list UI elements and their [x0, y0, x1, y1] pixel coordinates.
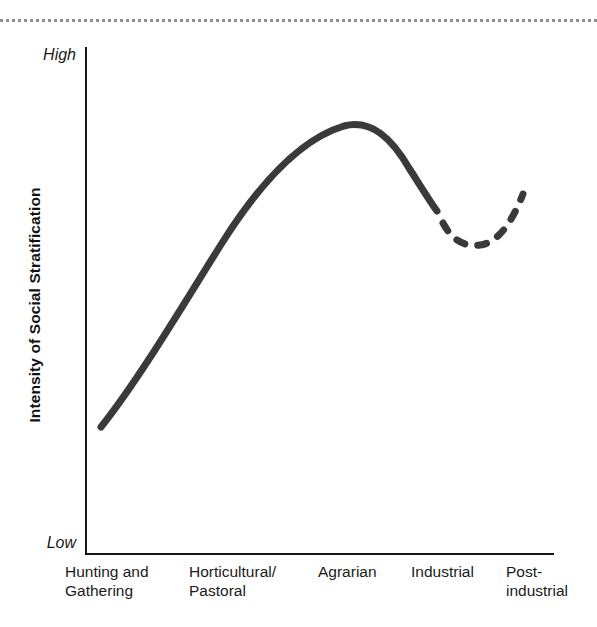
stratification-dashed-curve [443, 194, 523, 245]
curve-layer [0, 0, 597, 627]
stratification-solid-curve [101, 125, 437, 427]
chart-figure: High Low Intensity of Social Stratificat… [0, 0, 597, 627]
